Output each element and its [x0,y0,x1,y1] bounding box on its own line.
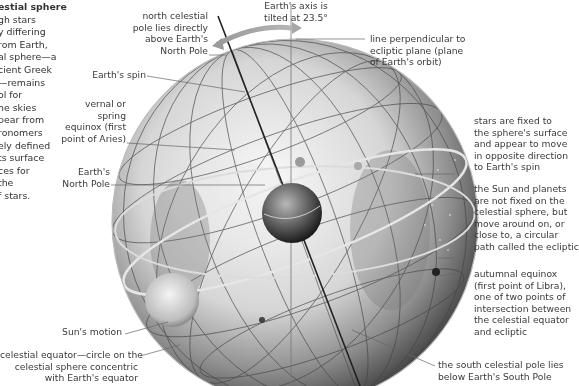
planet-dot [259,317,265,323]
intro-line: ts surface [0,152,118,165]
label-perpendicular-line: line perpendicular to ecliptic plane (pl… [370,33,465,68]
earth-globe [262,183,322,243]
label-south-celestial-pole: the south celestial pole lies below Eart… [438,359,564,382]
label-earths-north-pole: Earth's North Pole [30,166,110,189]
label-earths-spin: Earth's spin [60,69,146,81]
label-autumnal-equinox: autumnal equinox (first point of Libra),… [474,268,571,338]
planet-dot [432,268,440,276]
label-vernal-equinox: vernal or spring equinox (first point of… [40,98,126,144]
intro-line: f stars. [0,190,118,203]
label-suns-motion: Sun's motion [40,326,122,338]
planet-dot [295,157,305,167]
label-north-celestial-pole: north celestial pole lies directly above… [98,10,208,56]
sun-sphere [145,273,199,327]
planet-dot [354,162,362,170]
label-stars-fixed: stars are fixed to the sphere's surface … [474,115,568,173]
label-sun-and-planets: the Sun and planets are not fixed on the… [474,183,579,253]
label-axis-tilt: Earth's axis is tilted at 23.5° [236,0,356,23]
label-celestial-equator: celestial equator—circle on the celestia… [0,349,138,384]
